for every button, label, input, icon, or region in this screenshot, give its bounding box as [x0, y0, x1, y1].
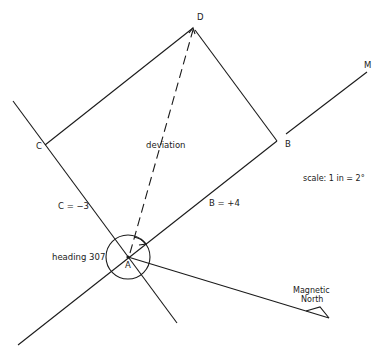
- point-a-label: A: [125, 261, 131, 270]
- point-b-label: B: [285, 140, 291, 149]
- compass-deviation-diagram: D C B M A deviation C = −3 B = +4 headin…: [0, 0, 384, 359]
- c-value-label: C = −3: [58, 202, 89, 211]
- point-d-label: D: [197, 13, 204, 22]
- magnetic-north-label-line1: Magnetic: [293, 287, 330, 295]
- arc-arrowhead-icon: [139, 239, 146, 245]
- point-m-label: M: [364, 61, 371, 70]
- deviation-label: deviation: [146, 141, 186, 150]
- line-c-to-d: [45, 28, 193, 145]
- line-d-to-b: [195, 30, 277, 141]
- magnetic-north-label-line2: North: [301, 296, 323, 304]
- point-a-dot: [126, 255, 129, 258]
- point-c-label: C: [36, 142, 42, 151]
- b-value-label: B = +4: [209, 199, 240, 208]
- scale-label: scale: 1 in = 2°: [303, 175, 365, 183]
- heading-label: heading 307: [52, 253, 105, 262]
- line-c-through-a: [13, 101, 177, 323]
- line-a-to-b: [18, 141, 277, 345]
- line-m: [286, 72, 367, 134]
